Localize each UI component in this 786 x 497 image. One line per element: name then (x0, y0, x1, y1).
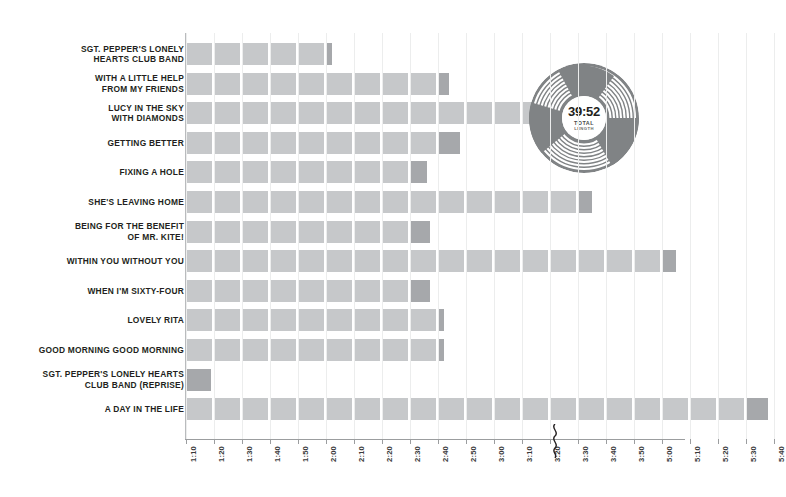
track-name-line: BEING FOR THE BENEFIT (14, 221, 184, 232)
gridline (270, 33, 271, 439)
x-tick-label: 3:00 (497, 446, 506, 462)
gridline (522, 33, 523, 439)
track-name-label: SHE'S LEAVING HOME (14, 197, 184, 208)
gridline (494, 33, 495, 439)
bar-segment-dividers (186, 102, 572, 124)
chart-row: BEING FOR THE BENEFITOF MR. KITE! (0, 221, 696, 243)
chart-row: WHEN I'M SIXTY-FOUR (0, 280, 696, 302)
x-tick (354, 439, 355, 444)
bar-segment-dividers (186, 250, 676, 272)
gridline (634, 33, 635, 439)
x-tick-label: 1:50 (301, 446, 310, 462)
x-tick (606, 439, 607, 444)
track-name-label: FIXING A HOLE (14, 167, 184, 178)
track-name-line: SGT. PEPPER'S LONELY (14, 44, 184, 55)
x-tick-label: 3:30 (581, 446, 590, 462)
x-tick (410, 439, 411, 444)
bar-segment-dividers (186, 221, 430, 243)
track-name-line: FIXING A HOLE (14, 167, 184, 178)
x-tick (186, 439, 187, 444)
track-length-bar[interactable] (186, 43, 332, 65)
track-length-bar[interactable] (186, 398, 768, 420)
x-tick-label: 3:40 (609, 446, 618, 462)
track-name-label: GETTING BETTER (14, 138, 184, 149)
x-tick-label: 5:00 (665, 446, 674, 462)
x-tick-label: 2:10 (357, 446, 366, 462)
x-tick (382, 439, 383, 444)
track-length-bar[interactable] (186, 339, 444, 361)
bar-partial-segment (410, 161, 427, 183)
gridline (690, 33, 691, 439)
gridline (774, 33, 775, 439)
track-length-bar[interactable] (186, 250, 676, 272)
track-name-line: WHEN I'M SIXTY-FOUR (14, 286, 184, 297)
x-tick-label: 1:30 (245, 446, 254, 462)
gridline (718, 33, 719, 439)
track-length-bar[interactable] (186, 309, 444, 331)
x-tick (746, 439, 747, 444)
x-tick (578, 439, 579, 444)
x-tick (494, 439, 495, 444)
bar-partial-segment (410, 280, 430, 302)
bar-segment-dividers (186, 339, 444, 361)
vinyl-record-graphic: 39:52 TOTAL LENGTH (528, 62, 640, 174)
total-length-value: 39:52 (568, 105, 600, 118)
gridline (242, 33, 243, 439)
x-tick (298, 439, 299, 444)
track-length-bar[interactable] (186, 280, 430, 302)
gridline (326, 33, 327, 439)
track-name-line: OF MR. KITE! (14, 232, 184, 243)
x-tick-label: 2:20 (385, 446, 394, 462)
x-tick (634, 439, 635, 444)
bar-segment-dividers (186, 43, 332, 65)
track-name-line: SHE'S LEAVING HOME (14, 197, 184, 208)
x-tick (270, 439, 271, 444)
chart-row: LOVELY RITA (0, 309, 696, 331)
track-length-bar[interactable] (186, 221, 430, 243)
x-tick-label: 5:10 (693, 446, 702, 462)
track-name-line: SGT. PEPPER'S LONELY HEARTS (14, 369, 184, 380)
bar-partial-segment (438, 132, 460, 154)
x-tick-label: 3:10 (525, 446, 534, 462)
x-tick-label: 5:20 (721, 446, 730, 462)
x-tick-label: 5:40 (777, 446, 786, 462)
x-tick (214, 439, 215, 444)
bar-partial-segment (186, 369, 211, 391)
bar-segment-dividers (186, 280, 430, 302)
x-tick (718, 439, 719, 444)
bar-partial-segment (438, 73, 449, 95)
bar-segment-dividers (186, 161, 427, 183)
bar-segment-dividers (186, 191, 592, 213)
track-name-label: SGT. PEPPER'S LONELYHEARTS CLUB BAND (14, 44, 184, 65)
track-length-bar[interactable] (186, 191, 592, 213)
chart-row: GOOD MORNING GOOD MORNING (0, 339, 696, 361)
bar-partial-segment (662, 250, 676, 272)
x-tick (466, 439, 467, 444)
track-name-line: GETTING BETTER (14, 138, 184, 149)
track-name-label: LUCY IN THE SKYWITH DIAMONDS (14, 103, 184, 124)
gridline (578, 33, 579, 439)
x-tick-label: 3:50 (637, 446, 646, 462)
bar-segment-dividers (186, 309, 444, 331)
track-length-bar[interactable] (186, 132, 460, 154)
track-name-line: A DAY IN THE LIFE (14, 404, 184, 415)
x-tick (690, 439, 691, 444)
gridline (438, 33, 439, 439)
bar-partial-segment (746, 398, 768, 420)
x-tick-label: 5:30 (749, 446, 758, 462)
bar-partial-segment (410, 221, 430, 243)
track-length-bar[interactable] (186, 369, 211, 391)
bar-partial-segment (578, 191, 592, 213)
gridline (382, 33, 383, 439)
x-tick (438, 439, 439, 444)
x-tick-label: 2:50 (469, 446, 478, 462)
gridline (410, 33, 411, 439)
track-name-label: BEING FOR THE BENEFITOF MR. KITE! (14, 221, 184, 242)
track-length-bar[interactable] (186, 161, 427, 183)
track-name-line: WITH A LITTLE HELP (14, 73, 184, 84)
x-tick-label: 2:00 (329, 446, 338, 462)
bar-segment-dividers (186, 132, 460, 154)
track-length-bar[interactable] (186, 102, 572, 124)
record-center-label: 39:52 TOTAL LENGTH (562, 96, 606, 140)
